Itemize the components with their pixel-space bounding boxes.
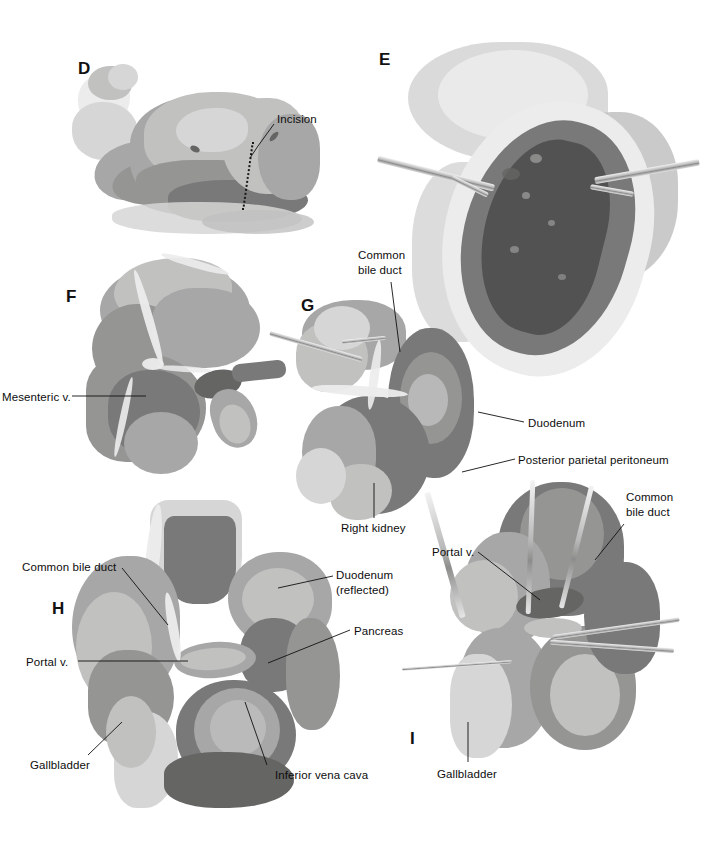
panel-letter-e: E xyxy=(379,51,391,68)
label-h-portal-vein: Portal v. xyxy=(26,655,68,670)
label-mesenteric-vein: Mesenteric v. xyxy=(2,390,71,405)
panel-letter-h: H xyxy=(52,600,65,617)
label-i-common-bile-duct: Common bile duct xyxy=(626,490,673,520)
label-h-inferior-vena-cava: Inferior vena cava xyxy=(275,768,368,783)
label-h-pancreas: Pancreas xyxy=(354,624,403,639)
label-g-common-bile-duct: Common bile duct xyxy=(358,248,405,278)
illustration-plate: D E F G H I Incision Mesenteric v. Commo… xyxy=(0,0,710,864)
panel-i-artwork xyxy=(424,478,674,778)
panel-h-artwork xyxy=(72,500,352,810)
panel-f-artwork xyxy=(86,258,286,478)
label-h-common-bile-duct: Common bile duct xyxy=(22,560,116,575)
label-i-portal-vein: Portal v. xyxy=(432,545,474,560)
panel-letter-g: G xyxy=(301,297,315,314)
label-incision: Incision xyxy=(277,112,317,127)
label-g-posterior-parietal-peritoneum: Posterior parietal peritoneum xyxy=(518,453,669,468)
panel-letter-d: D xyxy=(78,60,91,77)
label-i-gallbladder: Gallbladder xyxy=(437,767,497,782)
label-h-gallbladder: Gallbladder xyxy=(30,758,90,773)
label-g-right-kidney: Right kidney xyxy=(341,521,405,536)
panel-d-artwork xyxy=(72,62,322,232)
label-h-duodenum-reflected: Duodenum (reflected) xyxy=(336,568,393,598)
panel-letter-f: F xyxy=(66,288,77,305)
panel-letter-i: I xyxy=(410,730,415,747)
label-g-duodenum: Duodenum xyxy=(528,416,585,431)
